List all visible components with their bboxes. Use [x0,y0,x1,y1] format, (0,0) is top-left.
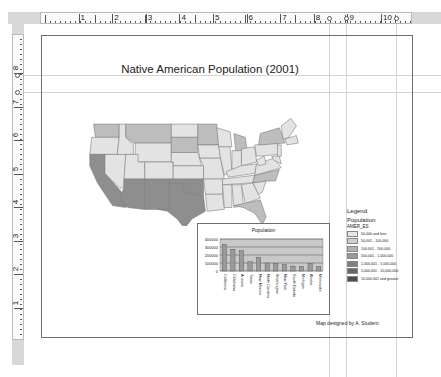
ruler-tick-major [14,274,23,275]
ruler-tick [160,21,161,23]
ruler-tick [20,244,22,245]
guide-marker[interactable] [394,16,399,21]
ruler-tick [260,21,261,23]
legend-swatch [347,261,358,267]
legend-item: 10,000,001 and greater [347,276,409,282]
guide-marker[interactable] [15,73,20,78]
ruler-tick [300,21,301,23]
ruler-tick [130,21,131,23]
ruler-tick [155,21,156,23]
ruler-tick-major [14,140,23,141]
legend-item-label: 50,001 - 100,000 [361,239,388,243]
legend-layer-name: Population [347,217,409,223]
guide-marker[interactable] [327,16,332,21]
us-map[interactable] [86,116,304,226]
ruler-tick [170,21,171,23]
ruler-tick [20,179,22,180]
ruler-tick [20,104,22,105]
vertical-ruler[interactable]: 12345678 [12,34,24,340]
ruler-tick-major [381,14,382,23]
ruler-label: 6 [12,133,20,137]
map-title[interactable]: Native American Population (2001) [110,63,310,75]
svg-text:New Mexico: New Mexico [258,274,262,295]
ruler-tick [20,44,22,45]
ruler-tick [195,15,196,23]
ruler-tick-major [14,207,23,208]
ruler-tick [20,154,22,155]
ruler-tick [200,21,201,23]
ruler-tick-major [112,14,113,23]
ruler-tick [220,21,221,23]
legend-swatch [347,268,358,274]
horizontal-ruler[interactable]: 12345678910 [40,12,412,24]
ruler-tick [20,214,22,215]
ruler-tick [240,21,241,23]
ruler-tick-major [179,14,180,23]
svg-text:Alaska: Alaska [309,274,313,286]
ruler-tick [295,15,296,23]
ruler-tick [20,94,22,95]
ruler-tick [20,334,22,335]
ruler-tick [20,144,22,145]
ruler-tick [235,21,236,23]
legend-item-label: 100,001 - 500,000 [361,247,390,251]
ruler-tick-major [14,241,23,242]
ruler-tick [125,21,126,23]
legend-item: 5,000,001 - 10,000,000 [347,268,409,274]
ruler-tick [65,21,66,23]
legend-item-label: 50,000 and less [361,232,386,236]
legend[interactable]: Legend Population AMER_ES 50,000 and les… [347,208,409,288]
ruler-tick [20,84,22,85]
ruler-tick [165,21,166,23]
ruler-tick [20,194,22,195]
credit-text[interactable]: Map designed by A. Student [316,320,379,326]
svg-text:100000: 100000 [205,261,219,266]
ruler-tick [20,289,22,290]
ruler-tick-major [213,14,214,23]
legend-field-name: AMER_ES [347,224,409,229]
ruler-tick [20,39,22,40]
guide-marker[interactable] [15,90,20,95]
ruler-tick [140,21,141,23]
legend-items: 50,000 and less 50,001 - 100,000 100,001… [347,231,409,282]
ruler-tick [20,124,22,125]
ruler-tick [20,314,22,315]
ruler-label: 5 [12,166,20,170]
ruler-tick [20,269,22,270]
ruler-tick [20,149,22,150]
ruler-label: 5 [215,14,219,22]
legend-item-label: 10,000,001 and greater [361,277,398,281]
svg-text:Michigan: Michigan [301,274,305,289]
ruler-tick [275,21,276,23]
ruler-tick-major [14,107,23,108]
ruler-tick [20,79,22,80]
ruler-tick [325,21,326,23]
ruler-tick [20,319,22,320]
svg-text:Minnesota: Minnesota [318,274,322,292]
ruler-tick [20,129,22,130]
ruler-tick [400,21,401,23]
svg-text:Arizona: Arizona [240,274,244,288]
ruler-label: 8 [12,66,20,70]
ruler-tick [365,21,366,23]
ruler-tick [20,64,22,65]
ruler-tick [410,21,411,23]
ruler-label: 3 [148,14,152,22]
ruler-label: 10 [383,14,392,22]
population-chart[interactable]: Population 0100000200000300000400000Cali… [197,223,330,315]
ruler-tick-major [280,14,281,23]
svg-text:200000: 200000 [205,253,219,258]
ruler-end [412,12,441,24]
svg-text:300000: 300000 [205,245,219,250]
ruler-tick [20,189,22,190]
ruler-tick [20,264,22,265]
legend-swatch [347,238,358,244]
ruler-label: 8 [316,14,320,22]
legend-item-label: 5,000,001 - 10,000,000 [361,269,398,273]
ruler-tick [310,21,311,23]
ruler-tick [70,21,71,23]
ruler-tick [20,279,22,280]
ruler-corner-v [12,24,24,34]
svg-text:South Dakota: South Dakota [292,274,296,298]
guide-marker[interactable] [344,16,349,21]
